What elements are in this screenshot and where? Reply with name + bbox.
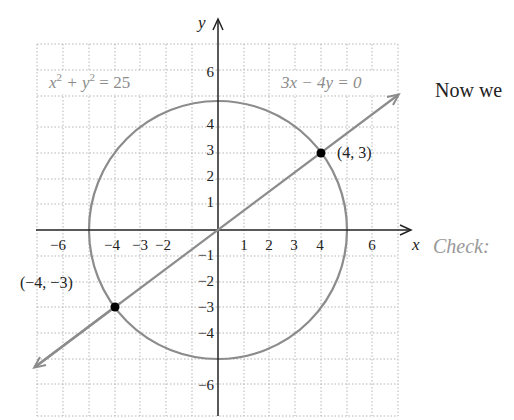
point-label-4-3: (4, 3) — [337, 144, 372, 162]
y-tick: −1 — [198, 247, 214, 263]
x-tick: 6 — [368, 237, 376, 253]
point-neg4-neg3 — [111, 303, 120, 312]
y-tick: 4 — [207, 116, 215, 132]
x-axis-label: x — [411, 235, 420, 254]
x-tick: 1 — [240, 237, 248, 253]
y-tick: −3 — [198, 299, 214, 315]
x-tick: −6 — [50, 237, 66, 253]
x-tick: −4 — [104, 237, 120, 253]
check-text: Check: — [433, 235, 490, 258]
x-tick: 3 — [290, 237, 298, 253]
line-3x-4y-lower-arrow — [35, 303, 120, 367]
intro-text: Now we — [435, 79, 502, 102]
point-label-neg4-neg3: (−4, −3) — [20, 274, 73, 292]
x-tick: 2 — [265, 237, 273, 253]
y-tick: 2 — [207, 168, 215, 184]
graph: −6 −4 −3 −2 1 2 3 4 6 6 4 3 2 1 −1 −2 −3… — [0, 0, 514, 420]
x-tick: 4 — [316, 237, 324, 253]
y-tick: 1 — [207, 194, 215, 210]
point-4-3 — [317, 149, 326, 158]
line-equation-label: 3x − 4y = 0 — [280, 73, 362, 92]
y-axis-label: y — [196, 13, 206, 32]
y-tick: −4 — [198, 325, 214, 341]
x-tick: −2 — [155, 237, 171, 253]
x-tick: −3 — [132, 237, 148, 253]
y-tick: −6 — [198, 377, 214, 393]
y-tick: 6 — [207, 64, 215, 80]
y-tick: 3 — [207, 142, 215, 158]
y-tick: −2 — [198, 273, 214, 289]
